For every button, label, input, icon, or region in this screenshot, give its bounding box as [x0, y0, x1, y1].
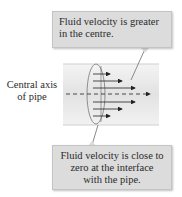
callout-text-line: Fluid velocity is close to	[57, 150, 167, 162]
axis-label-line: Central axis	[2, 79, 62, 91]
axis-label-line: of pipe	[2, 91, 62, 103]
top-callout: Fluid velocity is greater in the centre.	[52, 11, 172, 48]
bottom-callout: Fluid velocity is close to zero at the i…	[52, 145, 172, 190]
callout-text-line: Fluid velocity is greater	[59, 16, 165, 28]
callout-text-line: with the pipe.	[57, 174, 167, 186]
callout-text-line: in the centre.	[59, 28, 165, 40]
pipe	[63, 64, 159, 125]
callout-text-line: zero at the interface	[57, 162, 167, 174]
central-axis-label: Central axis of pipe	[2, 79, 62, 103]
